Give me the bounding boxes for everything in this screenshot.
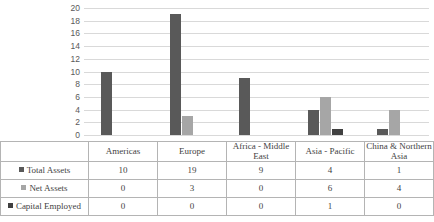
data-table-body: AmericasEuropeAfrica - Middle EastAsia -…: [1, 142, 434, 216]
y-axis-tick-label: 10: [56, 67, 80, 76]
table-cell: 0: [158, 198, 227, 216]
legend-swatch-icon: [19, 167, 24, 172]
legend-label: Total Assets: [27, 165, 71, 175]
bar: [170, 14, 181, 135]
legend-entry[interactable]: Total Assets: [1, 162, 89, 180]
bar: [239, 78, 250, 135]
data-table-region: AmericasEuropeAfrica - Middle EastAsia -…: [0, 141, 433, 222]
y-axis-tick-label: 0: [56, 131, 80, 140]
table-cell: 0: [227, 198, 296, 216]
table-cell: 0: [89, 198, 158, 216]
legend-label: Capital Employed: [16, 201, 81, 211]
table-cell: 0: [365, 198, 434, 216]
y-axis-tick-label: 4: [56, 105, 80, 114]
table-column-header: Africa - Middle East: [227, 142, 296, 162]
table-column-header: Americas: [89, 142, 158, 162]
legend-swatch-icon: [21, 185, 26, 190]
table-cell: 0: [227, 180, 296, 198]
legend-label: Net Assets: [29, 183, 67, 193]
table-cell: 6: [296, 180, 365, 198]
table-cell: 4: [296, 162, 365, 180]
gridline: [84, 135, 429, 136]
bar: [332, 129, 343, 135]
table-cell: 4: [365, 180, 434, 198]
table-cell: 10: [89, 162, 158, 180]
bar-group: [291, 8, 360, 135]
y-axis: 20181614121086420: [56, 8, 80, 135]
chart-plot-region: 20181614121086420: [0, 0, 433, 142]
table-cell: 9: [227, 162, 296, 180]
table-cell: 19: [158, 162, 227, 180]
bars-layer: [84, 8, 429, 135]
table-column-header: Europe: [158, 142, 227, 162]
bar: [389, 110, 400, 135]
table-cell: 1: [365, 162, 434, 180]
table-cell: 0: [89, 180, 158, 198]
table-cell: 3: [158, 180, 227, 198]
bar: [182, 116, 193, 135]
bar-group: [222, 8, 291, 135]
bar-group: [360, 8, 429, 135]
y-axis-tick-label: 2: [56, 118, 80, 127]
table-cell: 1: [296, 198, 365, 216]
table-header-row: AmericasEuropeAfrica - Middle EastAsia -…: [1, 142, 434, 162]
bar-group: [84, 8, 153, 135]
bar-group: [153, 8, 222, 135]
plot-area: [84, 8, 429, 135]
table-row: Total Assets1019941: [1, 162, 434, 180]
legend-swatch-icon: [8, 203, 13, 208]
legend-entry[interactable]: Capital Employed: [1, 198, 89, 216]
y-axis-tick-label: 20: [56, 4, 80, 13]
bar: [320, 97, 331, 135]
y-axis-tick-label: 16: [56, 29, 80, 38]
table-row: Capital Employed00010: [1, 198, 434, 216]
y-axis-tick-label: 14: [56, 42, 80, 51]
table-column-header: Asia - Pacific: [296, 142, 365, 162]
bar: [308, 110, 319, 135]
y-axis-tick-label: 18: [56, 16, 80, 25]
table-column-header: China & Northern Asia: [365, 142, 434, 162]
bar: [101, 72, 112, 136]
legend-entry[interactable]: Net Assets: [1, 180, 89, 198]
data-table: AmericasEuropeAfrica - Middle EastAsia -…: [0, 141, 434, 216]
y-axis-tick-label: 8: [56, 80, 80, 89]
y-axis-tick-label: 6: [56, 93, 80, 102]
y-axis-tick-label: 12: [56, 55, 80, 64]
table-corner-cell: [1, 142, 89, 162]
bar: [377, 129, 388, 135]
table-row: Net Assets03064: [1, 180, 434, 198]
